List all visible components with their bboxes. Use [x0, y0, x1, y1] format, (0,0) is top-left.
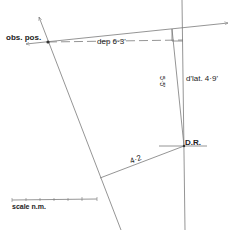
position-line-steep [39, 17, 121, 230]
dlat-label: d'lat. 4·9' [186, 75, 218, 83]
meridian-line [182, 0, 185, 230]
dr-label: D.R. [185, 139, 201, 147]
scale-bar [12, 197, 97, 202]
leg-5-5-label: 5·5' [159, 76, 166, 87]
right-angle-box [172, 29, 183, 41]
obs-pos-point [46, 40, 49, 43]
obs-pos-label: obs. pos. [6, 34, 41, 42]
leg-5-5-line [172, 29, 184, 146]
departure-label: dep 6·3' [97, 38, 126, 46]
leg-4-2-line [100, 146, 184, 178]
navigation-diagram: obs. pos. dep 6·3' 5·5' d'lat. 4·9' D.R.… [0, 0, 231, 230]
scale-label: scale n.m. [12, 203, 46, 210]
